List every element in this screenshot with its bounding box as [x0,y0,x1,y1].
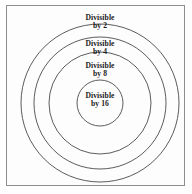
label-divisible-by-8-line2: by 8 [85,70,114,78]
label-divisible-by-2-line2: by 2 [85,22,114,30]
label-divisible-by-16-line2: by 16 [85,100,114,108]
label-divisible-by-16: Divisible by 16 [85,92,114,107]
diagram-canvas: Divisible by 2 Divisible by 4 Divisible … [0,0,192,194]
label-divisible-by-4: Divisible by 4 [85,40,114,55]
label-divisible-by-4-line2: by 4 [85,48,114,56]
label-divisible-by-8: Divisible by 8 [85,62,114,77]
label-divisible-by-2: Divisible by 2 [85,14,114,29]
